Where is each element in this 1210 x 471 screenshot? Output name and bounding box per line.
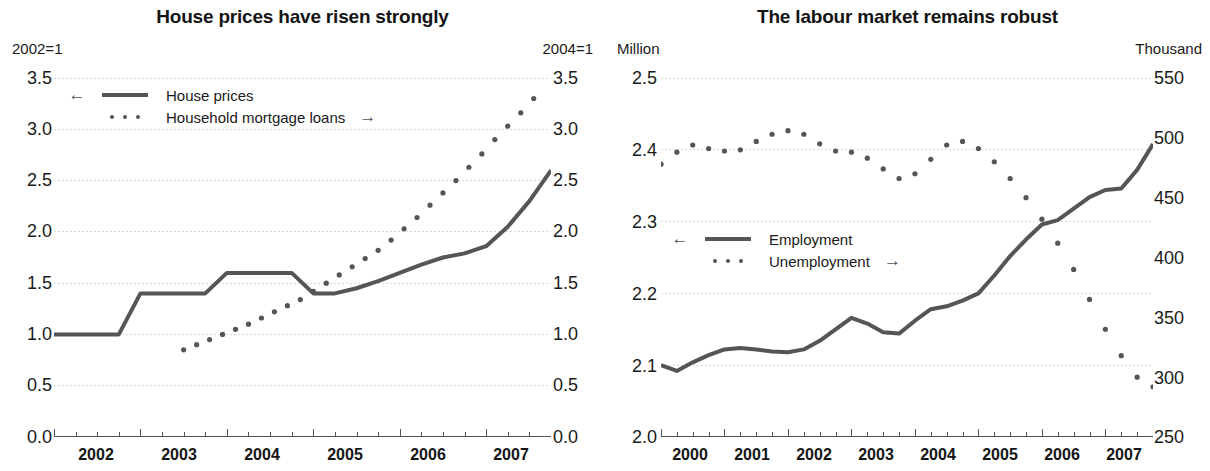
ytick2-right-2: 450 [1154,188,1208,209]
xtick-right-6: 2006 [1044,446,1080,464]
legend-key-dotted-icon-2 [697,259,759,263]
legend-key-dotted-icon [94,115,156,119]
legend-arrow-right-icon-2: → [870,251,901,271]
series-house-prices [54,170,551,334]
xtick-left-3: 2005 [327,446,363,464]
ytick-left-1: 3.0 [2,119,52,140]
xtick-left-4: 2006 [410,446,446,464]
ytick-right-1: 3.0 [553,119,603,140]
ytick2-right-3: 400 [1154,248,1208,269]
ytick2-right-6: 250 [1154,427,1208,448]
plot-svg-left [54,78,551,437]
ytick-left-6: 0.5 [2,375,52,396]
xtick-right-3: 2003 [858,446,894,464]
ytick-left-0: 3.5 [2,68,52,89]
legend-label-unemployment: Unemployment [759,253,870,270]
axis-unit-right-left: 2004=1 [543,40,593,57]
figure-root: House prices have risen strongly 2002=1 … [0,0,1210,471]
xtick-right-2: 2002 [796,446,832,464]
legend-label-mortgage-loans: Household mortgage loans [156,109,345,126]
legend-item-unemployment: Unemployment → [663,250,901,272]
legend-arrow-left-icon: ← [60,85,94,105]
ytick2-left-2: 2.3 [607,212,657,233]
ytick2-left-0: 2.5 [607,68,657,89]
axis-unit-left-right: Million [617,40,660,57]
ytick2-right-4: 350 [1154,308,1208,329]
ytick-left-4: 1.5 [2,273,52,294]
legend-key-solid-icon-2 [697,237,759,241]
ytick-right-5: 1.0 [553,324,603,345]
ytick2-left-1: 2.4 [607,140,657,161]
legend-item-mortgage-loans: Household mortgage loans → [60,106,376,128]
axis-unit-left-left: 2002=1 [12,40,62,57]
legend-label-employment: Employment [759,231,852,248]
xtick-right-4: 2004 [920,446,956,464]
xtick-left-2: 2004 [244,446,280,464]
ytick2-right-5: 300 [1154,368,1208,389]
plot-area-left [54,78,551,437]
xtick-right-1: 2001 [734,446,770,464]
xtick-left-0: 2002 [78,446,114,464]
ytick-left-2: 2.5 [2,170,52,191]
ytick-right-2: 2.5 [553,170,603,191]
legend-key-solid-icon [94,93,156,97]
ytick-right-7: 0.0 [553,427,603,448]
xtick-right-5: 2005 [982,446,1018,464]
legend-item-house-prices: ← House prices [60,84,376,106]
ytick2-left-5: 2.0 [607,427,657,448]
ytick-left-5: 1.0 [2,324,52,345]
axis-unit-right-right: Thousand [1135,40,1202,57]
legend-arrow-left-icon-2: ← [663,229,697,249]
legend-arrow-right-icon: → [345,107,376,127]
xtick-right-0: 2000 [672,446,708,464]
xtick-left-1: 2003 [161,446,197,464]
series-household-mortgage-loans [181,96,536,353]
chart-panel-labour-market: The labour market remains robust Million… [605,0,1210,471]
legend-right: ← Employment Unemployment → [663,228,901,272]
ytick2-right-0: 550 [1154,68,1208,89]
ytick-right-0: 3.5 [553,68,603,89]
chart-title-left: House prices have risen strongly [0,6,605,28]
ytick-right-4: 1.5 [553,273,603,294]
ytick2-left-3: 2.2 [607,284,657,305]
chart-title-right: The labour market remains robust [605,6,1210,28]
legend-left: ← House prices Household mortgage loans … [60,84,376,128]
chart-panel-house-prices: House prices have risen strongly 2002=1 … [0,0,605,471]
legend-label-house-prices: House prices [156,87,254,104]
ytick-left-7: 0.0 [2,427,52,448]
ytick-right-3: 2.0 [553,221,603,242]
xtick-left-5: 2007 [493,446,529,464]
legend-item-employment: ← Employment [663,228,901,250]
ytick2-right-1: 500 [1154,128,1208,149]
ytick2-left-4: 2.1 [607,356,657,377]
xtick-right-7: 2007 [1106,446,1142,464]
ytick-left-3: 2.0 [2,221,52,242]
ytick-right-6: 0.5 [553,375,603,396]
